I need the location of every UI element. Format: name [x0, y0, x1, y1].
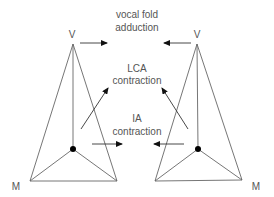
lca-label-line1: LCA [127, 63, 147, 74]
left-corner-label: M [12, 181, 20, 192]
right-edge-base [155, 180, 242, 181]
right-edge-apex-to-m [197, 44, 242, 180]
arrow-right-lca [162, 88, 188, 129]
vocal-fold-label-line2: adduction [115, 22, 158, 33]
left-joint-dot [70, 146, 76, 152]
right-edge-apex-to-left-corner [155, 44, 197, 181]
vocal-fold-label-line1: vocal fold [116, 9, 158, 20]
right-apex-label: V [194, 29, 201, 40]
right-joint-dot [195, 146, 201, 152]
left-apex-label: V [69, 29, 76, 40]
right-edge-dot-to-left-corner [155, 149, 198, 181]
right-edge-vertical-axis [197, 44, 198, 149]
vocal-fold-adduction-diagram: V M V M vocal fold adduction LCA contrac… [0, 0, 274, 197]
left-pyramid-model: V M [12, 29, 117, 192]
right-edge-dot-to-m [198, 149, 242, 180]
right-corner-label: M [252, 181, 260, 192]
right-pyramid-model: V M [155, 29, 260, 192]
left-edge-apex-to-right-corner [73, 44, 117, 181]
lca-label-line2: contraction [113, 75, 162, 86]
left-edge-apex-to-m [30, 44, 73, 181]
arrow-left-lca [81, 88, 108, 129]
ia-label-line2: contraction [113, 126, 162, 137]
left-edge-dot-to-right-corner [73, 149, 117, 181]
left-edge-dot-to-m [30, 149, 73, 181]
center-labels: vocal fold adduction LCA contraction IA … [113, 9, 162, 137]
ia-label-line1: IA [132, 113, 142, 124]
